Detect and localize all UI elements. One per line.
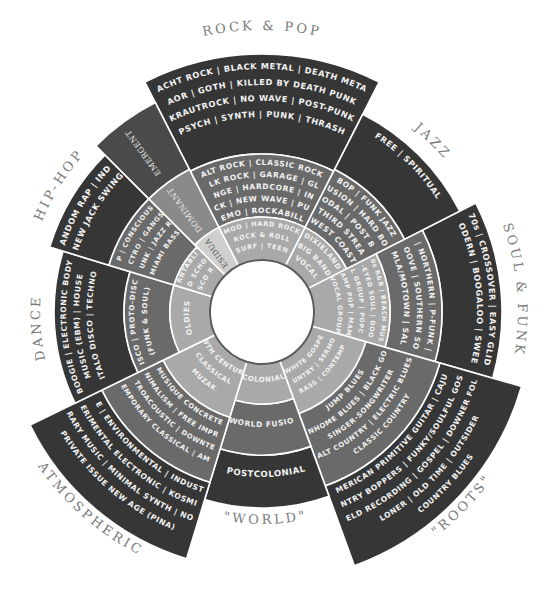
genre-wheel: ROCK & POPJAZZSOUL & FUNK"ROOTS""WORLD"A… xyxy=(0,0,548,601)
center-hole xyxy=(210,260,314,364)
soul-funk-title: SOUL & FUNK xyxy=(500,221,530,358)
dance-title: DANCE xyxy=(28,294,48,362)
world-title: "WORLD" xyxy=(222,507,308,527)
rock-pop-title: ROCK & POP xyxy=(201,18,323,39)
